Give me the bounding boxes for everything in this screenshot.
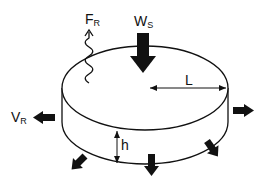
velocity-arrow-left-icon: [33, 111, 55, 124]
velocity-arrow-bottom-left-icon: [67, 151, 90, 174]
vr-label: VR: [11, 110, 27, 126]
fr-label: FR: [85, 12, 100, 28]
height-label: h: [121, 138, 129, 152]
velocity-arrow-right-icon: [233, 104, 254, 117]
radius-label: L: [185, 73, 193, 87]
disk-force-diagram: FR WS L VR h: [0, 0, 271, 184]
ws-label: WS: [134, 14, 153, 30]
